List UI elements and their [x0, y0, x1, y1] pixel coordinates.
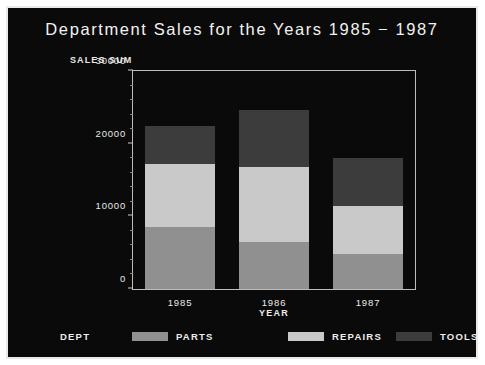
y-axis-minor-tick — [130, 99, 133, 100]
chart-screenshot: Department Sales for the Years 1985 − 19… — [0, 0, 485, 365]
legend-swatch-parts — [132, 332, 168, 341]
y-axis-tick-label: 0 — [120, 273, 126, 284]
bar-1986 — [239, 110, 309, 289]
legend-label: REPAIRS — [332, 331, 382, 342]
y-axis-tick — [128, 288, 133, 289]
x-axis-label: YEAR — [132, 308, 416, 318]
y-axis-minor-tick — [130, 230, 133, 231]
legend-title: DEPT — [60, 331, 90, 342]
y-axis-minor-tick — [130, 172, 133, 173]
legend-label: PARTS — [176, 331, 214, 342]
y-axis-tick — [128, 70, 133, 71]
y-axis-tick-label: 30000 — [96, 55, 126, 66]
y-axis-minor-tick — [130, 244, 133, 245]
bar-segment-repairs — [145, 164, 215, 227]
legend-swatch-repairs — [288, 332, 324, 341]
y-axis-minor-tick — [130, 259, 133, 260]
y-axis-minor-tick — [130, 157, 133, 158]
bar-segment-tools — [333, 158, 403, 206]
bar-segment-parts — [239, 242, 309, 289]
y-axis-minor-tick — [130, 201, 133, 202]
y-axis-tick-label: 10000 — [96, 200, 126, 211]
x-axis-tick-label: 1987 — [356, 297, 381, 308]
x-axis-tick-label: 1986 — [262, 297, 287, 308]
bar-segment-tools — [145, 126, 215, 164]
y-axis-tick — [128, 142, 133, 143]
bar-1985 — [145, 126, 215, 289]
bar-segment-parts — [333, 254, 403, 289]
chart-panel: Department Sales for the Years 1985 − 19… — [8, 8, 476, 357]
bar-segment-repairs — [333, 206, 403, 254]
y-axis-minor-tick — [130, 186, 133, 187]
bar-1987 — [333, 158, 403, 289]
y-axis-tick — [128, 215, 133, 216]
y-axis-minor-tick — [130, 85, 133, 86]
bar-segment-repairs — [239, 167, 309, 242]
y-axis-tick-label: 20000 — [96, 127, 126, 138]
bar-segment-tools — [239, 110, 309, 167]
y-axis-minor-tick — [130, 273, 133, 274]
x-axis-tick-label: 1985 — [168, 297, 193, 308]
plot-area: 3000020000100000198519861987 — [132, 70, 416, 290]
bar-segment-parts — [145, 227, 215, 289]
page-title: Department Sales for the Years 1985 − 19… — [8, 20, 476, 39]
y-axis-minor-tick — [130, 114, 133, 115]
legend-swatch-tools — [396, 332, 432, 341]
legend-label: TOOLS — [440, 331, 476, 342]
y-axis-minor-tick — [130, 128, 133, 129]
legend: DEPT PARTSREPAIRSTOOLS — [60, 330, 440, 344]
chart-panel-frame: Department Sales for the Years 1985 − 19… — [6, 6, 478, 359]
